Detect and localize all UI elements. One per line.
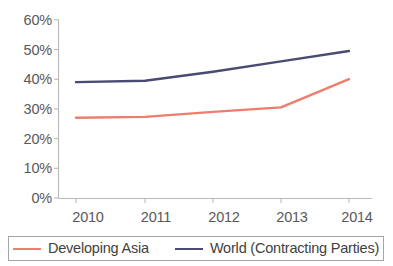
legend-color-swatch	[13, 248, 41, 250]
x-tick-label: 2014	[341, 209, 373, 225]
x-tick-label: 2012	[208, 209, 240, 225]
chart-plot-area: 60% 50% 40% 30% 20% 10% 0%	[0, 0, 393, 232]
x-axis-tick-labels: 2010 2011 2012 2013 2014	[72, 209, 373, 225]
data-series-group	[76, 51, 349, 118]
x-tick-label: 2011	[141, 209, 172, 225]
y-axis-tick-labels: 60% 50% 40% 30% 20% 10% 0%	[24, 12, 53, 206]
series-line-world-contracting-parties	[76, 51, 349, 82]
y-tick-label: 20%	[24, 131, 53, 147]
y-tick-label: 10%	[24, 160, 53, 176]
y-tick-label: 60%	[24, 12, 53, 28]
x-tick-label: 2010	[72, 209, 104, 225]
chart-legend: Developing Asia World (Contracting Parti…	[8, 236, 384, 261]
legend-item-developing-asia: Developing Asia	[13, 241, 149, 256]
y-axis-ticks	[54, 20, 59, 198]
x-tick-label: 2013	[276, 209, 308, 225]
y-tick-label: 0%	[31, 190, 52, 206]
y-tick-label: 40%	[24, 71, 53, 87]
y-tick-label: 50%	[24, 42, 53, 58]
legend-item-world-contracting-parties: World (Contracting Parties)	[175, 241, 379, 256]
line-chart: 60% 50% 40% 30% 20% 10% 0%	[0, 0, 393, 266]
x-axis-ticks	[76, 199, 349, 204]
series-line-developing-asia	[76, 79, 349, 118]
legend-label: World (Contracting Parties)	[210, 241, 379, 256]
legend-color-swatch	[175, 248, 203, 250]
legend-label: Developing Asia	[48, 241, 149, 256]
y-tick-label: 30%	[24, 101, 53, 117]
